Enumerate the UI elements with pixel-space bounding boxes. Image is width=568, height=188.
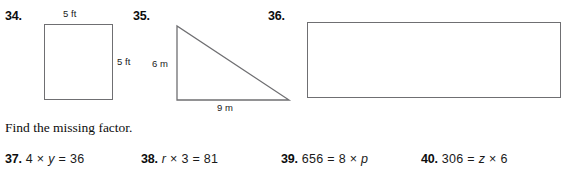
worksheet-page: 34. 5 ft 5 ft 35. 6 m 9 m 36. Find the m… — [0, 0, 568, 188]
instruction-text: Find the missing factor. — [5, 120, 133, 136]
exercise-40-pre: 306 = — [442, 152, 479, 166]
figure-35-bottom-label: 9 m — [217, 102, 233, 113]
exercise-38-post: × 3 = 81 — [166, 152, 218, 166]
problem-number-36: 36. — [268, 9, 285, 23]
exercise-37-post: = 36 — [55, 152, 85, 166]
figure-34-square — [44, 24, 113, 100]
exercise-39: 39.656 = 8 × p — [281, 153, 368, 166]
exercise-38-number: 38. — [141, 152, 158, 166]
exercise-37-pre: 4 × — [26, 152, 48, 166]
exercise-40: 40.306 = z × 6 — [421, 153, 508, 166]
figure-36-rectangle — [307, 22, 561, 98]
exercise-39-pre: 656 = 8 × — [302, 152, 361, 166]
figure-35-triangle — [172, 21, 294, 105]
exercise-39-expression: 656 = 8 × p — [302, 152, 369, 166]
exercise-40-expression: 306 = z × 6 — [442, 152, 508, 166]
problem-number-35: 35. — [133, 9, 150, 23]
exercise-37-number: 37. — [5, 152, 22, 166]
problem-number-34: 34. — [5, 9, 22, 23]
exercise-38: 38.r × 3 = 81 — [141, 153, 218, 166]
exercise-39-number: 39. — [281, 152, 298, 166]
figure-35-left-label: 6 m — [152, 58, 168, 69]
exercise-37: 37.4 × y = 36 — [5, 153, 84, 166]
exercise-40-number: 40. — [421, 152, 438, 166]
figure-34-right-label: 5 ft — [117, 56, 131, 67]
exercise-40-post: × 6 — [485, 152, 507, 166]
figure-34-top-label: 5 ft — [63, 8, 77, 19]
exercise-38-expression: r × 3 = 81 — [162, 152, 219, 166]
exercise-39-variable: p — [361, 152, 368, 166]
exercise-37-expression: 4 × y = 36 — [26, 152, 85, 166]
